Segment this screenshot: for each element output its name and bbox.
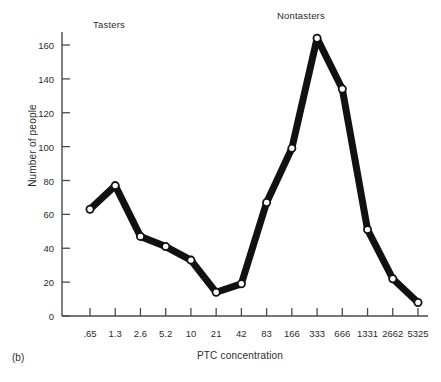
x-axis-tick-label: 1.3: [109, 328, 122, 339]
x-axis-title: PTC concentration: [60, 350, 420, 361]
x-axis-tick-label: 83: [261, 328, 272, 339]
data-point-marker: [339, 85, 346, 92]
data-point-marker: [313, 35, 320, 42]
data-point-marker: [238, 280, 245, 287]
panel-caption: (b): [12, 352, 24, 363]
y-axis-tick-label: 140: [28, 73, 54, 84]
data-point-marker: [414, 299, 421, 306]
x-axis-tick-label: 21: [211, 328, 222, 339]
x-axis-ticks: [90, 308, 418, 316]
x-axis-tick-label: 10: [186, 328, 197, 339]
data-point-marker: [389, 275, 396, 282]
annotation-nontasters: Nontasters: [277, 10, 325, 21]
data-point-marker: [112, 182, 119, 189]
data-point-markers: [86, 35, 421, 306]
x-axis-tick-label: 5325: [407, 328, 428, 339]
y-axis-tick-label: 20: [28, 277, 54, 288]
x-axis-tick-labels: .651.32.65.21021428316633366613312662532…: [0, 324, 441, 342]
x-axis-tick-label: 333: [309, 328, 325, 339]
x-axis-tick-label: 2.6: [134, 328, 147, 339]
x-axis-tick-label: .65: [83, 328, 96, 339]
data-point-marker: [86, 206, 93, 213]
data-point-marker: [213, 289, 220, 296]
y-axis-tick-label: 160: [28, 40, 54, 51]
y-axis-tick-label: 40: [28, 243, 54, 254]
x-axis-tick-label: 1331: [357, 328, 378, 339]
data-point-marker: [187, 257, 194, 264]
data-point-marker: [263, 199, 270, 206]
x-axis-tick-label: 666: [334, 328, 350, 339]
data-point-marker: [364, 226, 371, 233]
x-axis-tick-label: 166: [284, 328, 300, 339]
y-axis-tick-label: 0: [28, 311, 54, 322]
x-axis-tick-label: 42: [236, 328, 247, 339]
data-point-marker: [288, 145, 295, 152]
y-axis-tick-label: 80: [28, 175, 54, 186]
data-point-marker: [137, 233, 144, 240]
y-axis-tick-label: 60: [28, 209, 54, 220]
y-axis-tick-label: 120: [28, 107, 54, 118]
data-point-marker: [162, 243, 169, 250]
x-axis-tick-label: 2662: [382, 328, 403, 339]
data-series-line: [90, 38, 418, 302]
figure-panel: Number of people 020406080100120140160 .…: [0, 0, 441, 382]
y-axis-tick-label: 100: [28, 141, 54, 152]
x-axis-tick-label: 5.2: [159, 328, 172, 339]
annotation-tasters: Tasters: [93, 19, 125, 30]
y-axis-ticks: [62, 45, 70, 316]
